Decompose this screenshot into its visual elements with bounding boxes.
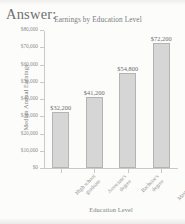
bar-value-label: $72,200 — [151, 35, 172, 42]
x-axis-tick — [94, 169, 95, 173]
y-axis-tick: $30,000 — [40, 116, 44, 117]
y-axis-tick-label: $20,000 — [21, 130, 38, 136]
bar: $72,200 — [153, 43, 170, 168]
bar: $41,200 — [86, 97, 103, 168]
x-axis-line — [44, 168, 178, 169]
y-axis-tick-label: $10,000 — [21, 147, 38, 153]
scanned-page: Answer: Earnings by Education Level Medi… — [0, 0, 185, 224]
y-axis-tick-label: $50,000 — [21, 78, 38, 84]
y-axis-tick: $50,000 — [40, 82, 44, 83]
y-axis-tick-label: $40,000 — [21, 95, 38, 101]
y-axis-tick: $40,000 — [40, 99, 44, 100]
bar-value-label: $41,200 — [84, 89, 105, 96]
bar-value-label: $32,200 — [50, 104, 71, 111]
y-axis-tick: $80,000 — [40, 30, 44, 31]
bar: $32,200 — [52, 112, 69, 168]
x-axis-category-label: Bachelor'sdegree — [139, 173, 164, 198]
plot-area: $0$10,000$20,000$30,000$40,000$50,000$60… — [44, 31, 178, 169]
bar-value-label: $54,800 — [117, 65, 138, 72]
y-axis-line — [44, 31, 45, 169]
y-axis-tick-label: $70,000 — [21, 43, 38, 49]
y-axis-tick-label: $80,000 — [21, 26, 38, 32]
y-axis-tick-label: $30,000 — [21, 112, 38, 118]
y-axis-tick: $20,000 — [40, 134, 44, 135]
x-axis-tick — [61, 169, 62, 173]
scan-edge-bottom — [0, 218, 185, 224]
x-axis-category-label: High schoolgraduate — [73, 173, 101, 201]
y-axis-tick: $70,000 — [40, 47, 44, 48]
x-axis-tick — [128, 169, 129, 173]
x-axis-category-label: Master's degreeor higher — [176, 173, 185, 206]
scan-edge-top — [0, 0, 185, 5]
y-axis-tick: $60,000 — [40, 65, 44, 66]
y-axis-tick-label: $60,000 — [21, 61, 38, 67]
bar-chart-figure: Earnings by Education Level Median Annua… — [14, 16, 182, 220]
bar: $54,800 — [119, 73, 136, 168]
x-axis-category-label: Associate'sdegree — [106, 173, 133, 200]
y-axis-tick: $0 — [40, 168, 44, 169]
x-axis-tick — [161, 169, 162, 173]
y-axis-tick-label: $0 — [33, 164, 38, 170]
x-axis-title: Education Level — [44, 206, 178, 213]
y-axis-tick: $10,000 — [40, 151, 44, 152]
chart-title: Earnings by Education Level — [14, 16, 182, 24]
